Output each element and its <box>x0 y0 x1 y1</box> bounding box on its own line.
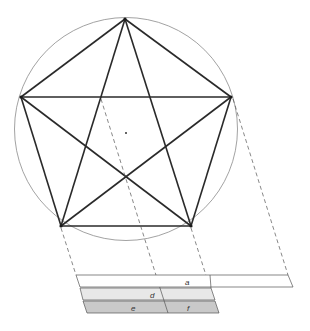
projection-line-right <box>233 99 288 275</box>
vertex-top <box>123 17 126 20</box>
vertex-bottom-left <box>59 224 62 227</box>
center-dot <box>125 132 127 134</box>
projection-lines <box>61 99 288 288</box>
pentagon-edges <box>21 19 231 226</box>
edge-bottomleft-left <box>21 97 61 226</box>
pentagram-diagram: a d e f <box>0 0 310 331</box>
pentagram-diagonals <box>21 19 231 226</box>
vertex-left <box>19 95 22 98</box>
label-a: a <box>185 278 190 287</box>
label-d: d <box>150 291 155 300</box>
projection-line-intersection <box>101 99 160 288</box>
vertex-right <box>229 95 232 98</box>
diagonal-top-bottomright <box>125 19 191 226</box>
projection-line-bottomleft <box>61 228 76 275</box>
bar-ef <box>83 301 219 313</box>
circumscribed-circle <box>15 18 238 241</box>
label-e: e <box>131 304 136 313</box>
edge-right-bottomright <box>191 97 231 226</box>
bar-d <box>80 288 215 300</box>
vertex-bottom-right <box>189 224 192 227</box>
diagonal-top-bottomleft <box>61 19 125 226</box>
